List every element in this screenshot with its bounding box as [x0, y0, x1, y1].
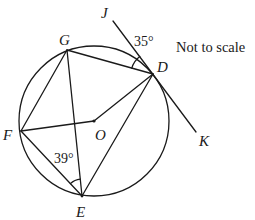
not-to-scale-note: Not to scale — [176, 39, 245, 55]
circle-geometry-diagram: J G D F O K E 35° 39° Not to scale — [0, 0, 255, 220]
label-e: E — [75, 204, 85, 220]
radius-od — [94, 74, 153, 121]
label-j: J — [101, 5, 109, 21]
angle-label-39: 39° — [54, 151, 74, 166]
label-o: O — [95, 127, 106, 143]
label-d: D — [156, 59, 168, 75]
tangent-line-jk — [113, 21, 196, 132]
label-g: G — [59, 32, 70, 48]
angle-arc-feg — [70, 179, 80, 184]
label-f: F — [2, 127, 13, 143]
chord-gf — [21, 50, 67, 131]
radius-fo — [21, 121, 94, 131]
label-k: K — [198, 133, 210, 149]
center-point-o — [92, 119, 95, 122]
angle-label-35: 35° — [134, 34, 154, 49]
point-e-dot — [81, 195, 84, 198]
